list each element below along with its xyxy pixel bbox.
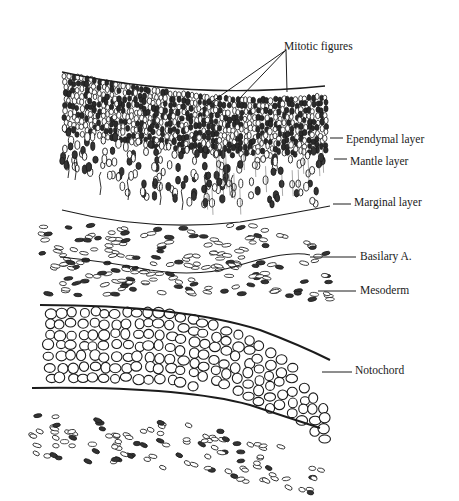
label-basilary-artery: Basilary A. [360,250,412,263]
ependymal-layer-cells [62,73,329,158]
label-mesoderm: Mesoderm [360,284,409,297]
leader-mitotic-3 [286,50,287,92]
histology-diagram: Mitotic figures Ependymal layer Mantle l… [0,0,459,501]
label-marginal-layer: Marginal layer [354,196,422,209]
marginal-boundary-line [62,206,330,225]
label-mitotic-figures: Mitotic figures [284,40,353,53]
label-notochord: Notochord [355,364,404,377]
label-ependymal-layer: Ependymal layer [346,133,424,146]
label-mantle-layer: Mantle layer [350,155,408,168]
